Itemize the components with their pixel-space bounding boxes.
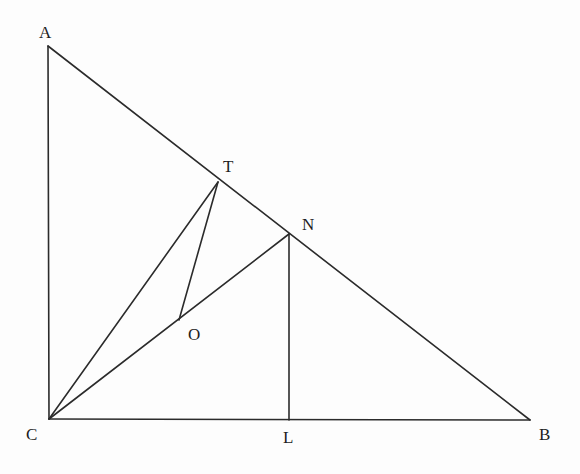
segment-ac: [48, 46, 49, 419]
segment-ct: [49, 182, 218, 419]
point-label-n: N: [302, 215, 314, 234]
segment-cn: [49, 234, 289, 419]
point-label-a: A: [39, 23, 52, 42]
geometry-figure: ABCTNOL: [0, 0, 580, 474]
diagram-canvas: ABCTNOL: [0, 0, 580, 474]
segment-to: [179, 182, 218, 320]
point-label-l: L: [283, 428, 293, 447]
point-label-t: T: [223, 157, 234, 176]
point-label-c: C: [26, 425, 37, 444]
segments-group: [48, 46, 530, 420]
point-label-b: B: [539, 425, 550, 444]
point-label-o: O: [188, 325, 200, 344]
